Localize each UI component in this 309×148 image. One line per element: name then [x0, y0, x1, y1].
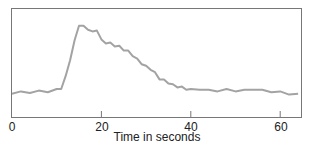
- signal-line: [12, 26, 298, 95]
- line-chart: [0, 0, 309, 148]
- x-tick-label-60: 60: [274, 120, 287, 134]
- plot-frame: [12, 9, 302, 118]
- x-axis-label: Time in seconds: [114, 130, 201, 144]
- x-axis-ticks: [101, 111, 280, 117]
- x-tick-label-0: 0: [9, 120, 16, 134]
- x-tick-label-20: 20: [95, 120, 108, 134]
